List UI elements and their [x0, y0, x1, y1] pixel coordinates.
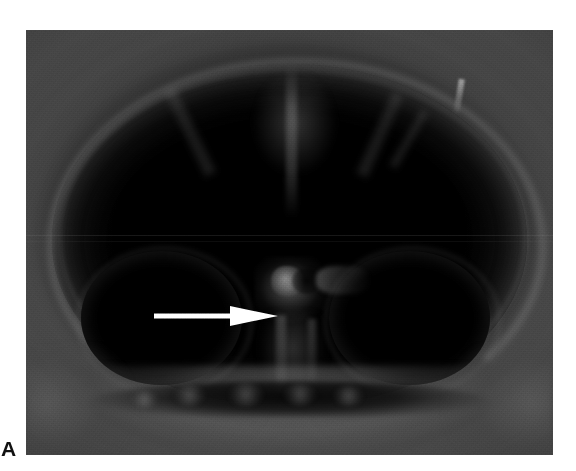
right-soft-tissue-wedge	[437, 345, 553, 456]
left-soft-tissue-wedge	[26, 345, 142, 456]
sphenoid-wing-streak	[316, 266, 369, 294]
figure-panel-label: A	[1, 436, 23, 462]
sinus-cell	[334, 386, 363, 406]
scanline-artifact-second	[26, 241, 553, 242]
scanline-artifact	[26, 235, 553, 236]
axial-ct-head-image	[26, 30, 553, 455]
sinus-cell	[284, 384, 316, 405]
sinus-cell	[229, 383, 263, 406]
sinus-cell	[174, 385, 206, 406]
frontal-midline-wedge	[247, 73, 342, 184]
